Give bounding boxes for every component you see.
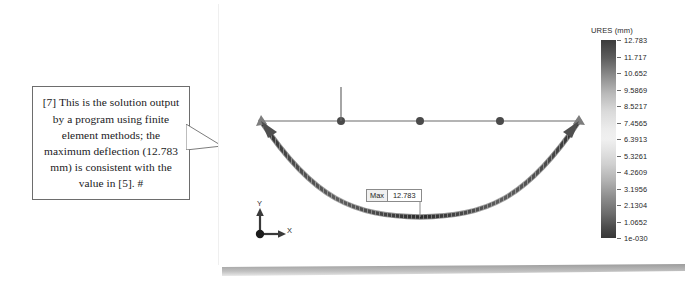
axis-label-x: X	[287, 226, 292, 235]
colorbar-tick-label: 11.717	[624, 53, 647, 62]
colorbar-tick	[617, 222, 621, 223]
colorbar-tick-label: 1e-030	[624, 234, 648, 243]
colorbar-tick-label: 1.0652	[624, 218, 647, 227]
colorbar-gradient-strip	[601, 40, 616, 238]
axis-label-y: Y	[257, 199, 262, 208]
colorbar-tick	[617, 189, 621, 190]
max-value: 12.783	[388, 190, 421, 201]
colorbar-tick-label: 12.783	[624, 36, 647, 45]
colorbar-tick-label: 6.3913	[624, 135, 647, 144]
colorbar-tick	[617, 205, 621, 206]
colorbar-tick	[617, 123, 621, 124]
colorbar-tick-label: 9.5869	[624, 86, 647, 95]
panel-drop-shadow	[222, 264, 685, 278]
colorbar-tick	[617, 57, 621, 58]
colorbar-tick	[617, 156, 621, 157]
axis-triad: Y X	[248, 200, 296, 246]
colorbar-tick	[617, 40, 621, 41]
colorbar-tick	[617, 106, 621, 107]
colorbar-tick-label: 7.4565	[624, 119, 647, 128]
left-support-marker	[256, 115, 277, 138]
screenshot-root: [7] This is the solution output by a pro…	[0, 0, 685, 298]
annotation-callout-box[interactable]: [7] This is the solution output by a pro…	[32, 86, 190, 200]
colorbar-tick-label: 5.3261	[624, 152, 647, 161]
colorbar-tick	[617, 238, 621, 239]
max-value-annotation[interactable]: Max 12.783	[366, 189, 422, 202]
colorbar-tick	[617, 73, 621, 74]
colorbar-tick-label: 8.5217	[624, 102, 647, 111]
colorbar-tick	[617, 172, 621, 173]
colorbar-title: URES (mm)	[591, 26, 633, 35]
annotation-callout-text: [7] This is the solution output by a pro…	[38, 94, 184, 191]
colorbar-tick	[617, 90, 621, 91]
colorbar-tick-label: 10.652	[624, 69, 647, 78]
max-label: Max	[367, 190, 388, 201]
colorbar-tick-label: 4.2609	[624, 168, 647, 177]
colorbar-legend: URES (mm) 12.78311.71710.6529.58698.5217…	[591, 26, 683, 248]
colorbar-tick	[617, 139, 621, 140]
colorbar-tick-label: 3.1956	[624, 185, 647, 194]
colorbar-tick-label: 2.1304	[624, 201, 647, 210]
